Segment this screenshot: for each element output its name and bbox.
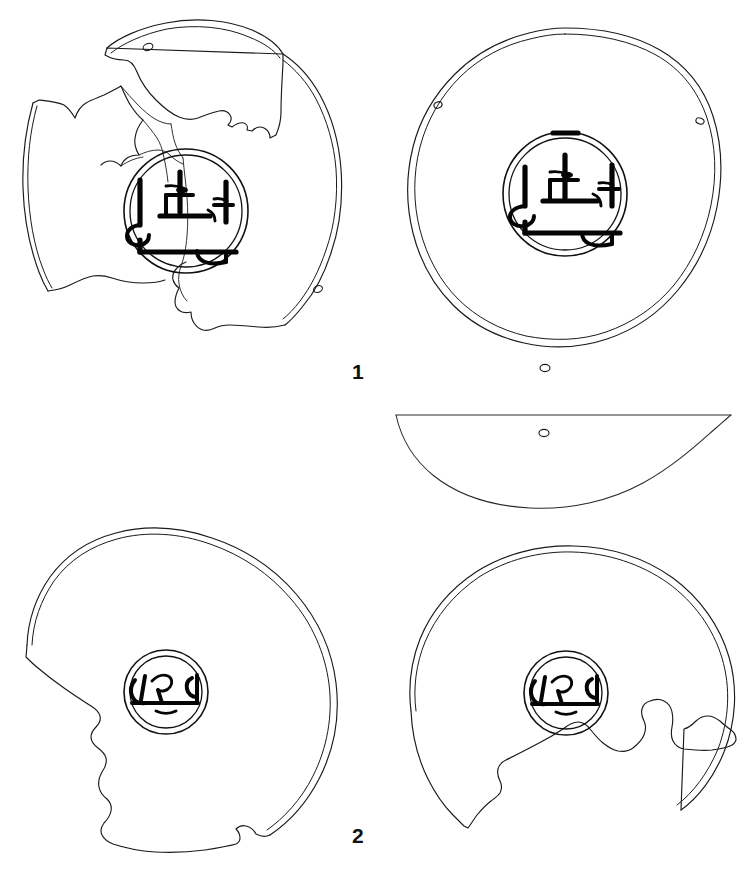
fragment-center-break-3 — [171, 124, 183, 158]
figure-1-label: 1 — [352, 360, 364, 383]
fragment-left-inner-rim — [28, 106, 52, 288]
fragment-left-lower-break-edge — [48, 276, 165, 291]
fig1-profile-group — [396, 415, 731, 508]
fig2-right-outer-rim — [410, 546, 735, 810]
fragment-right-outer-rim — [283, 54, 342, 325]
fragment-center-break-1 — [121, 86, 171, 124]
perforation-hole-icon — [142, 42, 154, 52]
fragment-left-break-edge — [33, 86, 143, 166]
fig2-right-break-edge — [411, 700, 736, 829]
fragment-left-outer-rim — [23, 103, 48, 291]
inscription-b-left — [131, 675, 198, 713]
perforation-hole-icon — [540, 364, 550, 371]
medallion-crack-branch — [163, 153, 168, 182]
fragment-center-break-2 — [143, 120, 163, 153]
inscription-a-left — [127, 172, 236, 264]
perforation-hole-icon — [313, 284, 324, 293]
perforation-hole-icon — [695, 117, 705, 126]
fig2-left-inner-rim — [32, 534, 330, 830]
fragment-top-break-edge — [105, 48, 283, 138]
profile-curve — [396, 415, 731, 508]
figure-2-label: 2 — [352, 824, 364, 847]
drawing-plate: 1 — [0, 0, 750, 873]
fig2-left-break-edge — [26, 645, 270, 852]
fragment-center-break-5 — [121, 157, 143, 166]
fig1-reverse-group — [408, 28, 721, 372]
inscription-b-right — [531, 676, 598, 714]
fig2-obverse-group — [26, 528, 337, 852]
inscription-a-right — [510, 155, 620, 246]
fragment-right-inner-rim — [283, 60, 337, 319]
fig1-obverse-group — [23, 20, 342, 330]
perforation-hole-icon — [539, 429, 549, 436]
fig2-left-outer-rim — [27, 528, 337, 835]
fig2-reverse-group — [410, 546, 736, 828]
fragment-center-break-4 — [139, 150, 183, 164]
plate-canvas: 1 — [0, 0, 750, 873]
